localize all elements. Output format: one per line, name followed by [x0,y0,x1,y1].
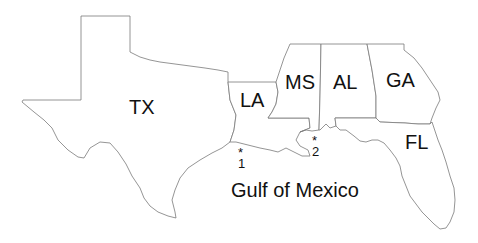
label-fl: FL [405,132,428,152]
label-ga: GA [386,70,415,90]
label-gulf-of-mexico: Gulf of Mexico [231,180,359,200]
state-florida [335,118,455,229]
label-tx: TX [129,97,155,117]
gulf-coast-map [0,0,478,243]
site-1-label: 1 [238,157,245,170]
label-al: AL [333,72,357,92]
label-ms: MS [285,72,315,92]
label-la: LA [240,90,264,110]
site-2-label: 2 [312,145,319,158]
